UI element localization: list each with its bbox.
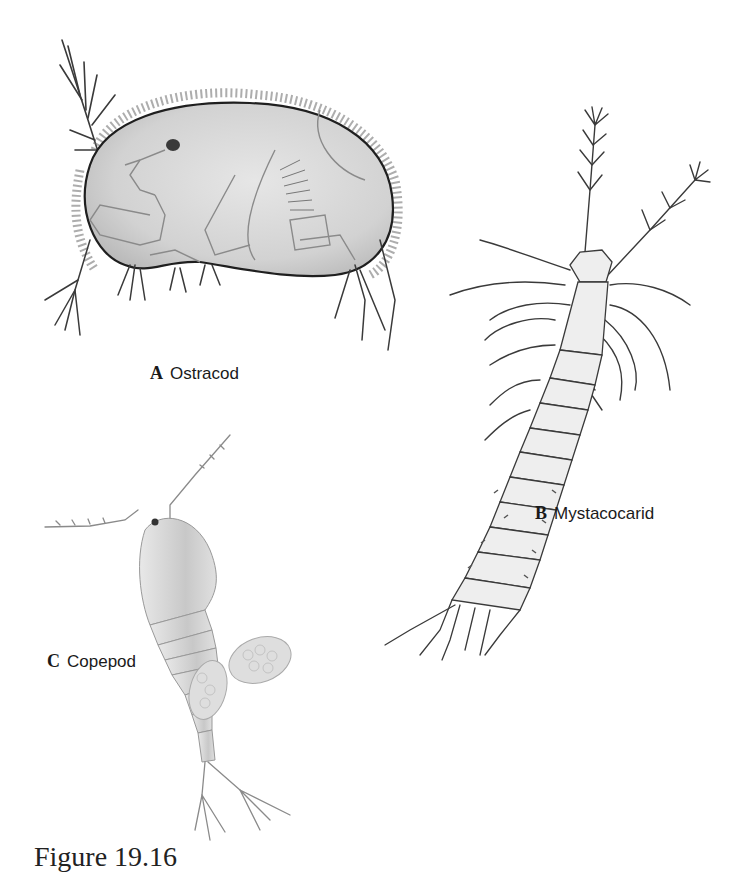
mystacocarid-illustration: BMystacocarid	[380, 110, 720, 650]
ostracod-drawing	[0, 0, 420, 350]
copepod-drawing	[30, 420, 370, 840]
ostracod-shell	[85, 103, 393, 276]
panel-name: Ostracod	[170, 364, 239, 383]
panel-name: Copepod	[67, 652, 136, 671]
panel-letter: A	[150, 363, 163, 383]
egg-sac	[222, 628, 297, 691]
ostracod-eye	[166, 139, 180, 151]
panel-name: Mystacocarid	[554, 504, 654, 523]
mystacocarid-drawing	[380, 110, 720, 650]
ostracod-illustration: AOstracod	[0, 0, 420, 350]
copepod-illustration: CCopepod	[30, 420, 370, 840]
figure-caption: Figure 19.16	[34, 843, 177, 871]
copepod-eye	[152, 519, 159, 526]
mystacocarid-head	[570, 250, 612, 282]
panel-letter: C	[47, 651, 60, 671]
panel-letter: B	[535, 503, 547, 523]
panel-label-c: CCopepod	[47, 651, 136, 672]
panel-label-a: AOstracod	[150, 363, 239, 384]
panel-label-b: BMystacocarid	[535, 503, 654, 524]
